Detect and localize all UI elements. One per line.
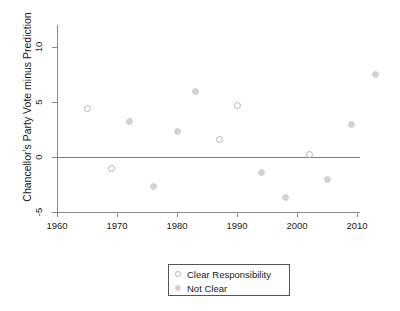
data-point	[348, 121, 355, 128]
data-point	[282, 194, 289, 201]
x-tick	[57, 212, 58, 217]
x-axis-line	[57, 212, 360, 213]
legend-item-clear-responsibility[interactable]: Clear Responsibility	[175, 267, 271, 281]
x-tick-label: 1990	[217, 220, 257, 231]
data-point	[234, 102, 241, 109]
filled-circle-icon	[175, 285, 181, 291]
x-tick-label: 2000	[277, 220, 317, 231]
x-tick-label: 1960	[37, 220, 77, 231]
data-point	[174, 128, 181, 135]
legend-item-not-clear[interactable]: Not Clear	[175, 281, 227, 295]
data-point	[192, 88, 199, 95]
x-tick	[177, 212, 178, 217]
y-tick-label: 0	[34, 144, 44, 170]
x-tick	[297, 212, 298, 217]
plot-area	[57, 25, 357, 212]
x-tick	[237, 212, 238, 217]
data-point	[216, 136, 223, 143]
x-tick-label: 1970	[97, 220, 137, 231]
legend-label: Not Clear	[187, 283, 227, 294]
x-tick-label: 2010	[337, 220, 377, 231]
data-point	[126, 118, 133, 125]
y-tick-label: 10	[34, 34, 44, 60]
data-point	[372, 71, 379, 78]
chart-legend: Clear Responsibility Not Clear	[168, 264, 290, 296]
data-point	[108, 165, 115, 172]
data-point	[150, 183, 157, 190]
scatter-chart: Chancellor's Party Vote minus Prediction…	[0, 0, 400, 311]
legend-label: Clear Responsibility	[187, 269, 271, 280]
x-tick	[117, 212, 118, 217]
data-point	[84, 105, 91, 112]
x-tick-label: 1980	[157, 220, 197, 231]
x-tick	[357, 212, 358, 217]
data-point	[324, 176, 331, 183]
y-axis-title: Chancellor's Party Vote minus Prediction	[20, 0, 34, 222]
data-point	[258, 169, 265, 176]
data-point	[306, 151, 313, 158]
open-circle-icon	[175, 271, 181, 277]
y-tick-label: 5	[34, 89, 44, 115]
